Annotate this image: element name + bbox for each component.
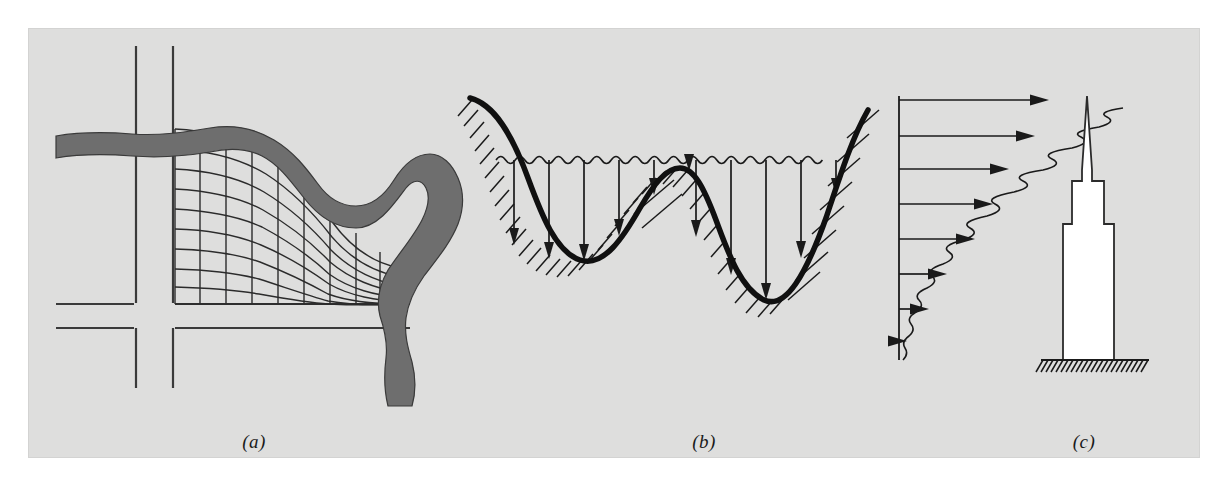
wind-velocity-profile-arrows [888, 95, 1049, 347]
right-bank-hatching [634, 110, 879, 300]
depth-arrow [761, 160, 771, 300]
velocity-arrow [899, 269, 947, 280]
velocity-arrow [899, 131, 1035, 142]
panel-b-diagram [428, 38, 898, 438]
velocity-arrow [899, 304, 929, 315]
panel-label-c: (c) [1054, 431, 1114, 453]
skyscraper-silhouette [1063, 96, 1114, 360]
figure-root: (a) (b) (c) [0, 0, 1228, 490]
depth-arrow [579, 160, 589, 261]
panel-c-diagram [873, 38, 1183, 438]
panel-label-a: (a) [224, 431, 284, 453]
depth-arrow [544, 160, 554, 259]
river-channel [56, 127, 463, 407]
depth-arrow [509, 160, 519, 245]
street-horizontal-corridor [56, 304, 410, 328]
velocity-arrow [899, 199, 993, 210]
wavy-water-surface [496, 157, 822, 164]
velocity-arrow [899, 164, 1009, 175]
velocity-arrow [899, 234, 975, 245]
depth-arrow [796, 160, 806, 258]
street-vertical-corridor [136, 46, 173, 388]
panel-a-diagram [28, 28, 468, 458]
panel-label-b: (b) [674, 431, 734, 453]
ground-hatching [1036, 360, 1148, 372]
depth-sounding-arrows [509, 154, 841, 300]
channel-bed-profile [470, 98, 868, 302]
figure-panel-background: (a) (b) (c) [28, 28, 1200, 458]
velocity-arrow [899, 95, 1049, 106]
